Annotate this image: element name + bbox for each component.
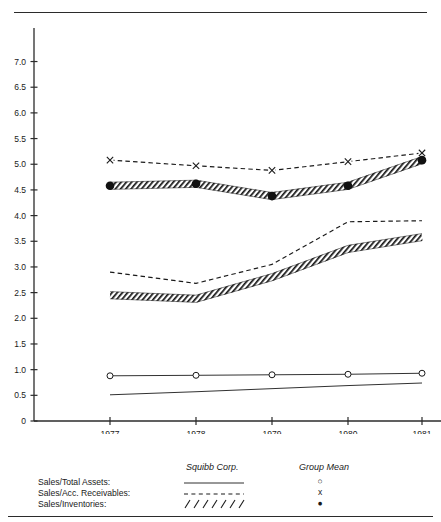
legend-label-sales-acc-receivables: Sales/Acc. Receivables:	[38, 488, 130, 499]
svg-text:5.5: 5.5	[14, 134, 26, 144]
svg-text:4.0: 4.0	[14, 211, 26, 221]
svg-text:0: 0	[21, 416, 26, 426]
svg-text:1978: 1978	[187, 429, 206, 434]
svg-text:1977: 1977	[101, 429, 120, 434]
svg-text:2.0: 2.0	[14, 313, 26, 323]
svg-text:1.5: 1.5	[14, 339, 26, 349]
chart-legend: Squibb Corp. Group Mean Sales/Total Asse…	[0, 462, 441, 514]
legend-marker-x: x	[310, 487, 330, 497]
legend-marker-filled-dot: ●	[310, 498, 330, 508]
legend-header-squibb: Squibb Corp.	[186, 462, 239, 472]
svg-text:1981: 1981	[413, 429, 432, 434]
svg-text:6.0: 6.0	[14, 108, 26, 118]
legend-marker-open-circle: ○	[310, 476, 330, 486]
svg-text:4.5: 4.5	[14, 185, 26, 195]
svg-text:7.0: 7.0	[14, 57, 26, 67]
svg-text:0.5: 0.5	[14, 390, 26, 400]
chart-series	[106, 149, 427, 394]
bottom-divider-rule	[8, 516, 433, 517]
svg-text:3.0: 3.0	[14, 262, 26, 272]
legend-header-group-mean: Group Mean	[299, 462, 349, 472]
legend-label-sales-inventories: Sales/Inventories:	[38, 499, 106, 510]
svg-text:1979: 1979	[263, 429, 282, 434]
chart-plot-area: 00.51.01.52.02.53.03.54.04.55.05.56.06.5…	[0, 14, 441, 434]
svg-text:6.5: 6.5	[14, 82, 26, 92]
line-chart-svg: 00.51.01.52.02.53.03.54.04.55.05.56.06.5…	[0, 14, 441, 434]
legend-swatch-hatched	[183, 498, 245, 511]
chart-page: 00.51.01.52.02.53.03.54.04.55.05.56.06.5…	[0, 0, 441, 522]
svg-text:5.0: 5.0	[14, 159, 26, 169]
top-divider-rule	[14, 12, 427, 13]
chart-axes	[31, 28, 441, 425]
svg-text:3.5: 3.5	[14, 236, 26, 246]
svg-text:1980: 1980	[339, 429, 358, 434]
legend-label-sales-total-assets: Sales/Total Assets:	[38, 477, 110, 488]
svg-text:1.0: 1.0	[14, 365, 26, 375]
svg-text:2.5: 2.5	[14, 288, 26, 298]
